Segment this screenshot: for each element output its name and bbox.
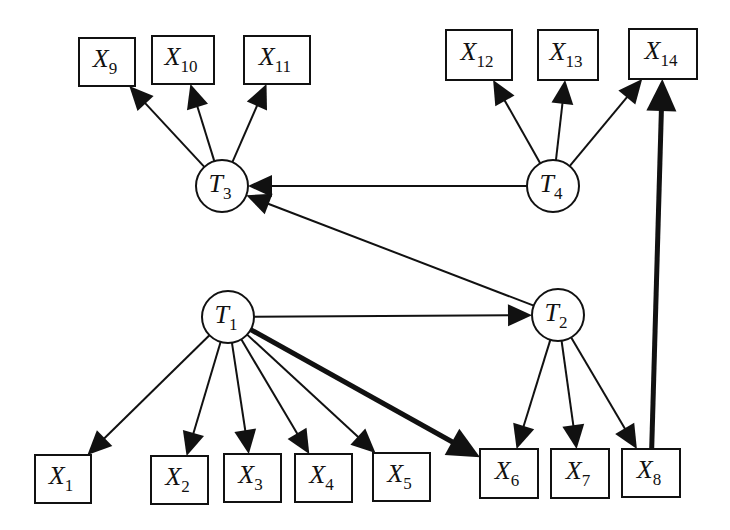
edge-t4-to-t3 — [248, 175, 527, 197]
edge-line — [523, 340, 550, 428]
edge-line — [267, 203, 534, 305]
observed-node-x9: X9 — [79, 38, 135, 86]
observed-node-x7: X7 — [551, 449, 609, 498]
arrowhead-icon — [248, 175, 272, 197]
latent-node-t2: T2 — [532, 289, 584, 341]
arrowhead-icon — [562, 424, 584, 449]
latent-tree-diagram: T1T2T3T4X1X2X3X4X5X6X7X8X9X10X11X12X13X1… — [0, 0, 730, 530]
edge-t2-to-t3 — [246, 194, 533, 306]
observed-node-x6: X6 — [480, 449, 538, 498]
edge-line — [571, 337, 626, 430]
arrowhead-icon — [493, 80, 514, 106]
arrowhead-icon — [183, 430, 204, 456]
edge-line — [652, 109, 662, 449]
edge-t4-to-x12 — [493, 80, 540, 163]
arrowhead-icon — [552, 80, 574, 105]
edge-line — [251, 330, 454, 443]
latent-node-t3: T3 — [196, 160, 248, 212]
edge-line — [247, 335, 359, 438]
latent-node-t4: T4 — [527, 160, 579, 212]
edge-line — [193, 342, 221, 435]
edge-t2-to-x6 — [513, 340, 550, 449]
edge-x8-to-x14 — [646, 79, 676, 449]
latent-node-t1: T1 — [202, 291, 254, 343]
observed-node-x5: X5 — [373, 453, 430, 501]
edge-line — [562, 341, 574, 427]
arrowhead-icon — [646, 79, 676, 111]
edge-t4-to-x14 — [570, 79, 643, 166]
edge-line — [232, 343, 246, 433]
arrowhead-icon — [187, 84, 208, 110]
edge-line — [556, 102, 563, 160]
observed-node-x4: X4 — [295, 454, 352, 502]
observed-node-x3: X3 — [224, 454, 281, 502]
edge-t3-to-x11 — [232, 84, 267, 162]
edge-t1-to-x2 — [183, 342, 221, 456]
observed-node-x2: X2 — [151, 456, 208, 504]
edge-line — [504, 99, 540, 163]
arrowhead-icon — [615, 423, 637, 449]
observed-node-x12: X12 — [446, 30, 512, 80]
edge-t1-to-t2 — [254, 304, 532, 326]
edges-layer — [87, 79, 676, 457]
edge-line — [144, 102, 204, 167]
arrowhead-icon — [508, 304, 532, 326]
observed-node-x1: X1 — [35, 455, 91, 503]
edge-t1-to-x5 — [247, 335, 375, 453]
arrowhead-icon — [234, 429, 256, 454]
arrowhead-icon — [288, 428, 310, 454]
edge-t3-to-x10 — [187, 84, 214, 161]
edge-line — [570, 96, 628, 166]
observed-node-x8: X8 — [622, 449, 680, 497]
edge-t4-to-x13 — [552, 80, 574, 160]
observed-node-x10: X10 — [152, 36, 214, 84]
edge-t2-to-x7 — [562, 341, 585, 449]
edge-line — [232, 104, 257, 162]
observed-node-x11: X11 — [244, 36, 310, 84]
edge-line — [103, 335, 209, 439]
arrowhead-icon — [513, 423, 534, 449]
observed-node-x14: X14 — [629, 29, 697, 79]
observed-node-x13: X13 — [538, 30, 598, 80]
arrowhead-icon — [618, 79, 642, 105]
edge-line — [197, 105, 214, 161]
edge-line — [254, 315, 510, 317]
